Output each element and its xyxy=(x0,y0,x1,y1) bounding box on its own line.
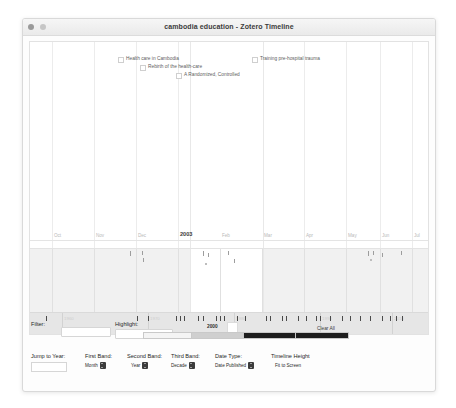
third-band-label: Third Band: xyxy=(171,353,200,359)
first-band-select[interactable]: Month xyxy=(85,362,106,369)
month-tick-label: Oct xyxy=(54,233,61,238)
highlight-swatch-3[interactable] xyxy=(243,332,297,339)
second-band-value: Year xyxy=(131,363,140,368)
band-settings-row: Jump to Year: First Band: Month Second B… xyxy=(31,351,427,385)
gridline xyxy=(94,42,95,248)
month-tick-label: Nov xyxy=(96,233,104,238)
timeline-event[interactable]: A Randomized, Controlled xyxy=(176,72,240,79)
third-band-value: Decade xyxy=(171,363,187,368)
date-type-label: Date Type: xyxy=(215,353,242,359)
month-tick-label-current-year: 2003 xyxy=(180,231,192,237)
timeline-band-month[interactable]: Health care in Cambodia Rebirth of the h… xyxy=(30,42,428,248)
window-title: cambodia education - Zotero Timeline xyxy=(23,19,435,35)
date-type-value: Date Published xyxy=(215,363,246,368)
gridline xyxy=(136,42,137,248)
second-band-select[interactable]: Year xyxy=(131,362,148,369)
event-marker-icon xyxy=(118,57,124,63)
month-tick-label: Mar xyxy=(264,233,272,238)
window-traffic-lights xyxy=(28,24,46,30)
timeline-event[interactable]: Health care in Cambodia xyxy=(118,56,179,63)
month-tick-label: Feb xyxy=(222,233,230,238)
month-tick-label: May xyxy=(348,233,357,238)
event-tick[interactable] xyxy=(142,251,143,255)
event-tick[interactable] xyxy=(208,253,209,257)
minimize-button[interactable] xyxy=(40,24,46,30)
gridline xyxy=(380,249,381,313)
event-label: Rebirth of the health-care xyxy=(148,64,202,69)
screen-root: cambodia education - Zotero Timeline xyxy=(0,0,456,408)
highlight-label: Highlight: xyxy=(115,321,138,327)
first-band-label: First Band: xyxy=(85,353,112,359)
highlight-swatch-2[interactable] xyxy=(191,332,245,339)
event-tick[interactable] xyxy=(228,251,229,255)
timeline-height-value[interactable]: Fit to Screen xyxy=(275,363,301,368)
chevron-updown-icon xyxy=(189,362,195,369)
jump-to-year-label: Jump to Year: xyxy=(31,353,65,359)
filter-input[interactable] xyxy=(61,327,111,337)
event-tick[interactable] xyxy=(382,253,383,257)
event-label: A Randomized, Controlled xyxy=(184,72,240,77)
window-titlebar[interactable]: cambodia education - Zotero Timeline xyxy=(23,19,435,36)
event-marker-icon xyxy=(252,57,258,63)
timeline-event[interactable]: Training pre-hospital trauma xyxy=(252,56,320,63)
chevron-updown-icon xyxy=(142,362,148,369)
chevron-updown-icon xyxy=(248,362,254,369)
month-tick-label: Jun xyxy=(382,233,389,238)
application-window: cambodia education - Zotero Timeline xyxy=(22,18,436,392)
close-button[interactable] xyxy=(28,24,34,30)
highlight-swatch-4[interactable] xyxy=(295,332,349,339)
timeline-viewport[interactable]: Health care in Cambodia Rebirth of the h… xyxy=(29,41,429,335)
filter-highlight-row: Filter: Highlight: Clear All xyxy=(31,319,427,351)
event-label: Training pre-hospital trauma xyxy=(260,56,320,61)
highlight-swatch-1[interactable] xyxy=(143,332,193,339)
date-type-select[interactable]: Date Published xyxy=(215,362,254,369)
event-marker-icon xyxy=(140,65,146,71)
event-dot[interactable] xyxy=(370,259,372,261)
gridline xyxy=(220,249,221,313)
month-tick-label: Apr xyxy=(306,233,313,238)
gridline xyxy=(346,42,347,248)
gridline xyxy=(304,42,305,248)
gridline xyxy=(178,249,179,313)
event-tick[interactable] xyxy=(373,251,374,255)
timeline-event[interactable]: Rebirth of the health-care xyxy=(140,64,202,71)
event-tick[interactable] xyxy=(130,251,131,256)
event-tick[interactable] xyxy=(203,251,204,256)
timeline-height-label: Timeline Height xyxy=(271,353,310,359)
event-tick[interactable] xyxy=(143,258,144,262)
gridline xyxy=(136,249,137,313)
focus-region xyxy=(190,249,264,313)
third-band-select[interactable]: Decade xyxy=(171,362,195,369)
filter-label: Filter: xyxy=(31,321,45,327)
gridline xyxy=(94,249,95,313)
controls-panel: Filter: Highlight: Clear All Jump to Yea… xyxy=(23,319,435,391)
first-band-value: Month xyxy=(85,363,98,368)
gridline xyxy=(380,42,381,248)
jump-to-year-input[interactable] xyxy=(31,362,67,372)
event-label: Health care in Cambodia xyxy=(126,56,179,61)
event-tick[interactable] xyxy=(401,251,402,255)
gridline xyxy=(412,42,413,248)
event-marker-icon xyxy=(176,73,182,79)
gridline xyxy=(304,249,305,313)
gridline xyxy=(52,42,53,248)
event-dot[interactable] xyxy=(205,263,207,265)
clear-all-button[interactable]: Clear All xyxy=(317,326,335,331)
gridline xyxy=(262,249,263,313)
chevron-updown-icon xyxy=(100,362,106,369)
axis-line xyxy=(30,240,428,241)
event-tick[interactable] xyxy=(368,251,369,256)
gridline xyxy=(52,249,53,313)
timeline-band-year[interactable] xyxy=(30,248,428,313)
gridline xyxy=(412,249,413,313)
second-band-label: Second Band: xyxy=(127,353,162,359)
gridline xyxy=(346,249,347,313)
event-tick[interactable] xyxy=(234,259,235,263)
month-tick-label: Dec xyxy=(138,233,146,238)
month-tick-label: Jul xyxy=(414,233,420,238)
